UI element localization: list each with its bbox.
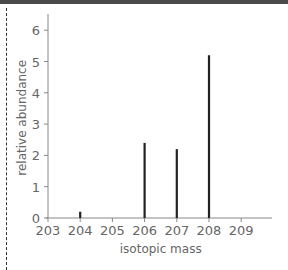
mass-spectrum-chart: 0123456203204205206207208209isotopic mas… xyxy=(0,0,288,270)
y-tick-label: 4 xyxy=(32,86,40,101)
x-tick-label: 205 xyxy=(100,223,125,238)
x-tick-label: 203 xyxy=(36,223,61,238)
y-axis-title: relative abundance xyxy=(15,60,29,176)
x-tick-label: 206 xyxy=(132,223,157,238)
y-tick-label: 5 xyxy=(32,55,40,70)
y-tick-label: 3 xyxy=(32,117,40,132)
y-tick-label: 6 xyxy=(32,23,40,38)
y-tick-label: 1 xyxy=(32,180,40,195)
x-tick-label: 204 xyxy=(68,223,93,238)
x-tick-label: 207 xyxy=(164,223,189,238)
y-tick-label: 2 xyxy=(32,148,40,163)
x-tick-label: 209 xyxy=(229,223,254,238)
x-tick-label: 208 xyxy=(197,223,222,238)
x-axis-title: isotopic mass xyxy=(120,242,202,256)
